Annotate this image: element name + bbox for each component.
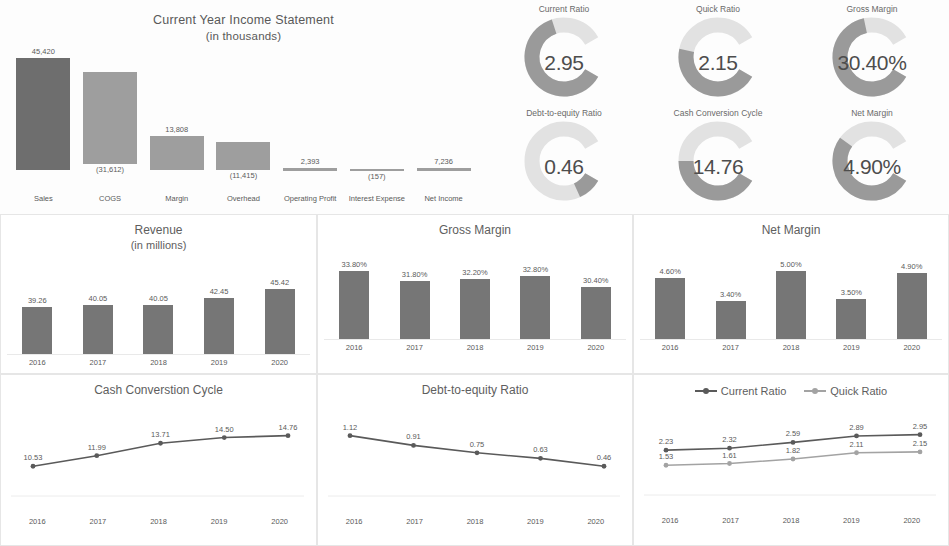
- line-point-label: 1.61: [722, 451, 737, 460]
- bar-value-label: 40.05: [149, 294, 168, 303]
- bar-rect: [581, 287, 611, 339]
- bar-value-label: 5.00%: [780, 260, 801, 269]
- axis-category-label: 2020: [258, 358, 302, 367]
- bar-column: 3.50%: [829, 243, 873, 339]
- axis-category-label: 2016: [332, 517, 376, 526]
- line-point-label: 0.75: [470, 440, 485, 449]
- axis-category-label: 2017: [709, 516, 753, 525]
- debt-to-equity-title: Debt-to-equity Ratio: [324, 383, 626, 398]
- legend-item[interactable]: Quick Ratio: [804, 385, 887, 397]
- bar-column: 3.40%: [709, 243, 753, 339]
- line-point-label: 14.76: [279, 423, 298, 432]
- axis-category-label: 2018: [769, 343, 813, 352]
- waterfall-category-label: COGS: [81, 194, 139, 204]
- axis-category-label: 2018: [136, 517, 180, 526]
- ratio-comparison-line-chart: 2.232.322.592.892.951.531.611.822.112.15: [640, 401, 942, 513]
- cash-conversion-cycle-line-chart: 10.5311.9913.7114.5014.76: [7, 402, 310, 514]
- waterfall-category-label: Overhead: [214, 194, 272, 204]
- bar-value-label: 30.40%: [583, 276, 608, 285]
- gauge-label: Current Ratio: [539, 4, 590, 14]
- waterfall-value-label: (157): [339, 172, 415, 181]
- middle-chart-row: Revenue (in millions) 39.2640.0540.0542.…: [0, 214, 949, 374]
- financial-dashboard: Current Year Income Statement (in thousa…: [0, 0, 949, 546]
- waterfall-bar: [16, 58, 70, 170]
- gauge-dial: 0.46: [518, 119, 610, 203]
- bar-value-label: 45.42: [270, 278, 289, 287]
- gauge-dial: 4.90%: [826, 119, 918, 203]
- bar-rect: [460, 279, 490, 339]
- line-point-label: 2.15: [913, 439, 928, 448]
- bar-value-label: 31.80%: [402, 270, 427, 279]
- waterfall-column: 45,420: [14, 52, 72, 192]
- axis-category-label: 2017: [76, 517, 120, 526]
- waterfall-value-label: 13,808: [139, 125, 215, 134]
- waterfall-bar: [216, 142, 270, 170]
- axis-category-label: 2019: [829, 516, 873, 525]
- bar-column: 32.20%: [453, 243, 497, 339]
- bar-rect: [716, 301, 746, 339]
- line-point-label: 10.53: [24, 453, 43, 462]
- waterfall-column: 2,393: [281, 52, 339, 192]
- gauge-label: Quick Ratio: [696, 4, 740, 14]
- bar-rect: [83, 305, 113, 354]
- axis-category-label: 2016: [332, 343, 376, 352]
- gauge-label: Cash Conversion Cycle: [674, 108, 763, 118]
- waterfall-column: (157): [348, 52, 406, 192]
- gauge-net-margin: Net Margin4.90%: [795, 108, 949, 212]
- income-statement-panel: Current Year Income Statement (in thousa…: [0, 0, 487, 214]
- axis-category-label: 2020: [890, 343, 934, 352]
- waterfall-bar: [283, 168, 337, 171]
- gross-margin-title-text: Gross Margin: [324, 223, 626, 238]
- gauge-dial: 30.40%: [826, 15, 918, 99]
- gauge-value: 0.46: [518, 155, 610, 179]
- kpi-gauge-grid: Current Ratio2.95Quick Ratio2.15Gross Ma…: [487, 0, 949, 214]
- axis-category-label: 2018: [453, 517, 497, 526]
- legend-marker-icon: [804, 390, 826, 392]
- gauge-value: 30.40%: [826, 51, 918, 75]
- debt-to-equity-line-chart: 1.120.910.750.630.46: [324, 402, 626, 514]
- waterfall-category-label: Net Income: [415, 194, 473, 204]
- revenue-subtitle: (in millions): [7, 238, 310, 253]
- axis-category-label: 2017: [393, 343, 437, 352]
- income-statement-waterfall-chart: 45,420(31,612)13,808(11,415)2,393(157)7,…: [10, 52, 477, 192]
- bar-rect: [776, 271, 806, 339]
- waterfall-bar: [417, 168, 471, 171]
- line-point-label: 0.63: [533, 445, 548, 454]
- legend-label: Current Ratio: [721, 385, 786, 397]
- line-point-label: 1.82: [786, 446, 801, 455]
- bar-value-label: 32.20%: [462, 268, 487, 277]
- axis-category-label: 2019: [197, 358, 241, 367]
- bar-column: 40.05: [136, 258, 180, 354]
- axis-category-label: 2018: [136, 358, 180, 367]
- waterfall-category-label: Sales: [14, 194, 72, 204]
- gauge-label: Net Margin: [851, 108, 893, 118]
- bar-column: 45.42: [258, 258, 302, 354]
- revenue-panel: Revenue (in millions) 39.2640.0540.0542.…: [0, 214, 317, 374]
- bar-rect: [836, 299, 866, 339]
- income-statement-subtitle: (in thousands): [10, 28, 477, 44]
- axis-category-label: 2019: [197, 517, 241, 526]
- bar-value-label: 40.05: [89, 294, 108, 303]
- gauge-current-ratio: Current Ratio2.95: [487, 4, 641, 108]
- revenue-category-axis: 20162017201820192020: [7, 358, 310, 367]
- waterfall-value-label: (31,612): [72, 165, 148, 174]
- gauge-quick-ratio: Quick Ratio2.15: [641, 4, 795, 108]
- waterfall-column: 7,236: [415, 52, 473, 192]
- gross-margin-panel: Gross Margin 33.80%31.80%32.20%32.80%30.…: [317, 214, 633, 374]
- waterfall-bar: [150, 136, 204, 170]
- gauge-gross-margin: Gross Margin30.40%: [795, 4, 949, 108]
- axis-category-label: 2016: [648, 516, 692, 525]
- axis-category-label: 2017: [709, 343, 753, 352]
- line-point-label: 2.89: [849, 423, 864, 432]
- line-point-label: 13.71: [151, 430, 170, 439]
- legend-item[interactable]: Current Ratio: [695, 385, 786, 397]
- gauge-cash-conversion-cycle: Cash Conversion Cycle14.76: [641, 108, 795, 212]
- axis-category-label: 2019: [513, 343, 557, 352]
- bar-column: 4.90%: [890, 243, 934, 339]
- cash-conversion-cycle-title: Cash Converstion Cycle: [7, 383, 310, 398]
- income-statement-title: Current Year Income Statement (in thousa…: [10, 12, 477, 44]
- axis-category-label: 2017: [76, 358, 120, 367]
- axis-category-label: 2020: [258, 517, 302, 526]
- debt-to-equity-title-text: Debt-to-equity Ratio: [324, 383, 626, 398]
- cash-conversion-cycle-category-axis: 20162017201820192020: [7, 517, 310, 526]
